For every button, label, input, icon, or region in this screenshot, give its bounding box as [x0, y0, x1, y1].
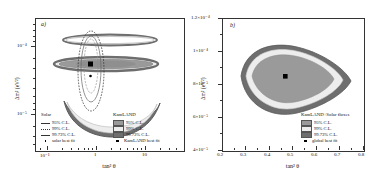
kamland-band-upper	[63, 35, 157, 46]
solar-best-fit-marker	[89, 75, 92, 78]
legend-global-title: KamLAND+Solar fluxes	[301, 112, 349, 119]
legend-kamland-title: KamLAND	[113, 112, 159, 119]
panel-b-ylabel: Δm² (eV²)	[200, 77, 206, 100]
legend-item: global best fit	[301, 138, 349, 144]
square-marker-icon	[113, 139, 122, 144]
line-dashdot-icon	[41, 127, 50, 131]
legend-label: global best fit	[312, 138, 337, 145]
legend-item: solar best fit	[41, 138, 75, 144]
panel-a-ytick-1: 10⁻⁵	[17, 110, 27, 116]
swatch-9973-icon	[113, 132, 124, 139]
kamland-best-fit-marker	[88, 62, 93, 67]
panel-b: b) 0.2 0.3 0.4 0.5 0.6 0.7 0.8	[190, 0, 385, 187]
panel-b-ytick-1: 6×10⁻⁵	[193, 113, 208, 119]
panel-b-ytick-0: 4×10⁻⁵	[193, 146, 208, 152]
panel-b-xtick-3: 0.5	[287, 152, 293, 157]
panel-a-xlabel: tan² θ	[35, 163, 183, 169]
panel-b-xtick-4: 0.6	[311, 152, 317, 157]
small-dot-icon	[41, 139, 50, 144]
panel-a-ylabel: Δm² (eV²)	[14, 77, 20, 100]
panel-b-xtick-6: 0.8	[358, 152, 364, 157]
panel-b-xlabel: tan² θ	[222, 163, 363, 169]
figure-root: a) 10⁻¹ 1 10	[0, 0, 385, 187]
panel-a-xtick-1: 1	[94, 152, 97, 157]
panel-b-xtick-1: 0.3	[240, 152, 246, 157]
panel-b-xtick-2: 0.4	[264, 152, 270, 157]
legend-label: KamLAND best fit	[124, 138, 159, 145]
panel-a-legend-solar: Solar 95% C.L. 99% C.L. 99.73% C.L. sola…	[41, 112, 75, 144]
panel-a: a) 10⁻¹ 1 10	[0, 0, 195, 187]
line-solid-icon	[41, 121, 50, 125]
panel-a-ytick-0: 10⁻⁴	[17, 42, 27, 48]
square-marker-icon	[301, 139, 310, 144]
legend-item: KamLAND best fit	[113, 138, 159, 144]
panel-b-ytick-3: 1×10⁻⁴	[193, 47, 208, 53]
panel-a-xtick-2: 10	[142, 152, 147, 157]
panel-b-xtick-5: 0.7	[334, 152, 340, 157]
panel-b-xtick-0: 0.2	[217, 152, 223, 157]
global-best-fit-marker	[283, 74, 288, 79]
line-solid-icon	[41, 133, 50, 137]
panel-b-letter: b)	[230, 22, 235, 28]
panel-a-legend-kamland: KamLAND 95% C.L. 99% C.L. 99.73% C.L. Ka…	[113, 112, 159, 144]
panel-a-xtick-0: 10⁻¹	[40, 152, 50, 158]
kamland-band-main	[54, 57, 158, 71]
legend-solar-title: Solar	[41, 112, 75, 119]
panel-b-ytick-4: 1.2×10⁻⁴	[191, 14, 210, 20]
panel-b-legend: KamLAND+Solar fluxes 95% C.L. 99% C.L. 9…	[301, 112, 349, 144]
panel-a-letter: a)	[41, 21, 46, 27]
swatch-9973-icon	[301, 132, 312, 139]
legend-label: solar best fit	[52, 138, 75, 145]
